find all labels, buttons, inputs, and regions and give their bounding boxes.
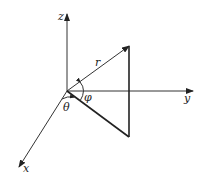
z-label: z bbox=[57, 10, 64, 23]
x-label: x bbox=[23, 162, 30, 175]
theta-label: θ bbox=[63, 101, 70, 114]
y-label: y bbox=[183, 92, 191, 105]
r-label: r bbox=[95, 56, 101, 69]
spherical-coordinates-diagram: z y x r φ θ bbox=[0, 0, 200, 184]
theta-arc bbox=[62, 97, 74, 99]
phi-label: φ bbox=[84, 91, 92, 104]
lower-edge bbox=[67, 91, 129, 137]
x-axis bbox=[19, 91, 67, 167]
